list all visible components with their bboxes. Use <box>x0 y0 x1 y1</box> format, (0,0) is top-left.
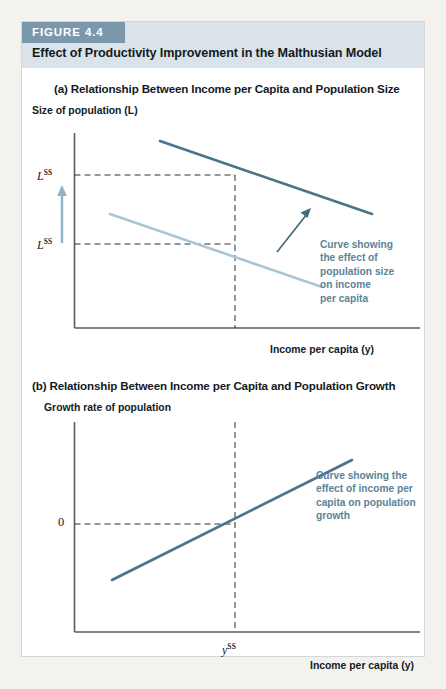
panel-a-y-axis-label: Size of population (L) <box>32 105 138 116</box>
panel-b-tick-y-ss: ySS <box>222 642 236 658</box>
figure-container: FIGURE 4.4 Effect of Productivity Improv… <box>21 21 425 657</box>
panel-b-plot <box>22 414 424 649</box>
figure-page: FIGURE 4.4 Effect of Productivity Improv… <box>0 0 446 689</box>
panel-a-curve-shifted <box>160 141 372 214</box>
panel-b-heading: (b) Relationship Between Income per Capi… <box>32 379 395 392</box>
population-increase-arrow <box>57 185 67 243</box>
panel-b-x-axis-label: Income per capita (y) <box>310 660 414 671</box>
figure-number-badge: FIGURE 4.4 <box>22 22 125 43</box>
figure-title-bar: FIGURE 4.4 Effect of Productivity Improv… <box>22 22 424 68</box>
panel-a-annotation: Curve showing the effect of population s… <box>320 238 394 305</box>
panel-a-curve-original <box>110 214 322 287</box>
panel-a-x-axis-label: Income per capita (y) <box>270 344 374 355</box>
panel-a-heading: (a) Relationship Between Income per Capi… <box>54 82 400 95</box>
figure-title: Effect of Productivity Improvement in th… <box>32 46 417 60</box>
panel-b-annotation: Curve showing the effect of income per c… <box>316 469 416 523</box>
panel-a-plot <box>22 117 424 347</box>
upward-shift-arrow <box>277 208 311 252</box>
panel-b-y-axis-label: Growth rate of population <box>44 402 171 413</box>
y-ss-sup: SS <box>227 642 236 651</box>
